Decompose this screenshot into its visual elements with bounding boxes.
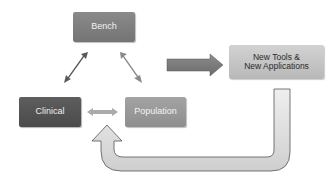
node-bench-label: Bench	[91, 22, 117, 32]
node-clinical-label: Clinical	[35, 107, 64, 117]
right-block-arrow-icon	[167, 54, 223, 76]
node-bench: Bench	[73, 12, 135, 42]
node-new-tools-line2: New Applications	[244, 62, 309, 71]
node-population-label: Population	[134, 107, 177, 117]
bench-population-double-arrow-icon	[120, 52, 142, 83]
node-new-tools: New Tools & New Applications	[229, 45, 324, 79]
u-turn-arrow-icon	[92, 89, 290, 171]
bench-clinical-double-arrow-icon	[64, 52, 88, 83]
node-clinical: Clinical	[19, 97, 81, 127]
diagram-canvas: Bench Clinical Population New Tools & Ne…	[0, 0, 334, 183]
node-population: Population	[125, 97, 186, 127]
diagram-arrows	[0, 0, 334, 183]
clinical-population-double-arrow-icon	[87, 108, 118, 116]
